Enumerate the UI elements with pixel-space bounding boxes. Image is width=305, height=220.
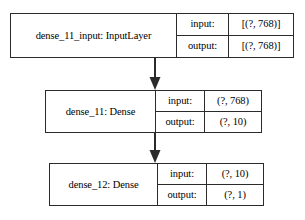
input-label: input: bbox=[158, 164, 206, 185]
output-label: output: bbox=[158, 185, 206, 206]
node-dense-11-input-label: dense_11_input: InputLayer bbox=[11, 14, 176, 57]
input-label: input: bbox=[177, 14, 228, 36]
shape-value-column: [(?, 768)] [(?, 768)] bbox=[229, 14, 293, 57]
node-dense-11-shape-table: input: output: (?, 768) (?, 10) bbox=[155, 91, 261, 132]
node-dense-11-input[interactable]: dense_11_input: InputLayer input: output… bbox=[10, 13, 294, 58]
node-dense-11[interactable]: dense_11: Dense input: output: (?, 768) … bbox=[45, 90, 262, 133]
output-shape-value: (?, 1) bbox=[207, 185, 263, 206]
output-label: output: bbox=[156, 112, 204, 133]
node-dense-11-label: dense_11: Dense bbox=[46, 91, 155, 132]
shape-label-column: input: output: bbox=[156, 91, 205, 132]
output-shape-value: (?, 10) bbox=[205, 112, 261, 133]
node-dense-12[interactable]: dense_12: Dense input: output: (?, 10) (… bbox=[49, 163, 264, 206]
model-graph: dense_11_input: InputLayer input: output… bbox=[0, 0, 305, 220]
shape-value-column: (?, 10) (?, 1) bbox=[207, 164, 263, 205]
shape-label-column: input: output: bbox=[158, 164, 207, 205]
output-shape-value: [(?, 768)] bbox=[229, 36, 293, 58]
input-shape-value: (?, 768) bbox=[205, 91, 261, 112]
output-label: output: bbox=[177, 36, 228, 58]
node-dense-11-input-shape-table: input: output: [(?, 768)] [(?, 768)] bbox=[176, 14, 293, 57]
node-dense-12-shape-table: input: output: (?, 10) (?, 1) bbox=[157, 164, 263, 205]
node-dense-12-label: dense_12: Dense bbox=[50, 164, 157, 205]
input-label: input: bbox=[156, 91, 204, 112]
input-shape-value: [(?, 768)] bbox=[229, 14, 293, 36]
shape-value-column: (?, 768) (?, 10) bbox=[205, 91, 261, 132]
input-shape-value: (?, 10) bbox=[207, 164, 263, 185]
shape-label-column: input: output: bbox=[177, 14, 229, 57]
